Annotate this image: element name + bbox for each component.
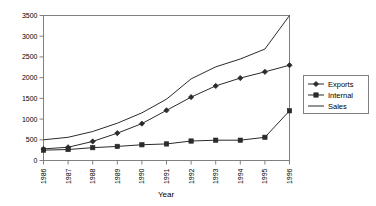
y-tick-label: 1500 [22,95,38,102]
legend-label-sales: Sales [328,102,347,111]
data-point-marker [189,139,193,143]
data-point-marker [140,143,144,147]
x-tick-label: 1986 [40,168,47,184]
legend-label-internal: Internal [328,91,353,100]
data-point-marker [263,135,267,139]
y-tick-label: 1000 [22,116,38,123]
data-point-marker [164,142,168,146]
data-point-marker [238,138,242,142]
x-tick-label: 1996 [286,168,293,184]
y-tick-label: 2500 [22,53,38,60]
chart-legend: ExportsInternalSales [304,76,369,114]
data-point-marker [115,144,119,148]
x-tick-label: 1989 [114,168,121,184]
data-point-marker [41,148,45,152]
y-tick-label: 0 [34,157,38,164]
y-axis-ticks [40,16,44,161]
line-chart: 0500100015002000250030003500 19861987198… [0,0,376,206]
legend-label-exports: Exports [328,80,354,89]
x-tick-label: 1990 [138,168,145,184]
x-tick-label: 1987 [65,168,72,184]
x-tick-label: 1988 [89,168,96,184]
y-tick-label: 3000 [22,33,38,40]
data-point-marker [214,138,218,142]
data-point-marker [91,145,95,149]
legend-marker-square [314,93,318,97]
x-tick-label: 1992 [188,168,195,184]
data-point-marker [66,147,70,151]
x-tick-label: 1994 [237,168,244,184]
y-axis-tick-labels: 0500100015002000250030003500 [22,12,38,164]
x-axis-tick-labels: 1986198719881989199019911992199319941995… [40,168,293,184]
y-tick-label: 500 [26,136,38,143]
x-tick-label: 1991 [163,168,170,184]
x-tick-label: 1993 [212,168,219,184]
data-point-marker [287,109,291,113]
x-axis-title: Year [158,190,175,199]
y-tick-label: 2000 [22,74,38,81]
x-tick-label: 1995 [261,168,268,184]
chart-canvas: 0500100015002000250030003500 19861987198… [0,0,376,206]
y-tick-label: 3500 [22,12,38,19]
x-axis-ticks [44,161,290,165]
